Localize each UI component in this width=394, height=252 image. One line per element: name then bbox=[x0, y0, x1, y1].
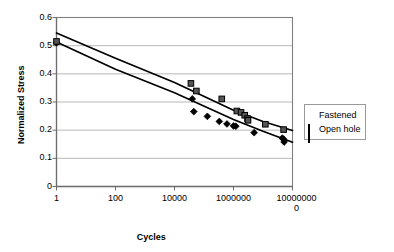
chart-legend: Fastened Open hole bbox=[304, 104, 366, 140]
x-axis-title: Cycles bbox=[0, 232, 303, 242]
square-marker-icon bbox=[308, 125, 317, 134]
x-tick-label: 100 bbox=[92, 193, 140, 203]
data-point-open-hole bbox=[281, 127, 287, 133]
x-tick-label: 10000 bbox=[151, 193, 199, 203]
data-point-fastened bbox=[190, 108, 197, 115]
legend-label-fastened: Fastened bbox=[319, 110, 357, 120]
legend-item-fastened: Fastened bbox=[308, 108, 361, 122]
legend-item-open-hole: Open hole bbox=[308, 122, 361, 136]
trend-lines bbox=[57, 33, 293, 142]
x-tick-label: 1 bbox=[33, 193, 81, 203]
data-point-open-hole bbox=[188, 81, 194, 87]
diamond-marker-icon bbox=[308, 111, 317, 120]
data-point-fastened bbox=[224, 121, 231, 128]
data-point-open-hole bbox=[194, 88, 200, 94]
data-point-fastened bbox=[204, 113, 211, 120]
fatigue-sn-chart: Normalized Stress 00.10.20.30.40.50.6 11… bbox=[0, 0, 394, 252]
data-points bbox=[53, 39, 287, 146]
data-point-open-hole bbox=[245, 118, 251, 124]
data-point-open-hole bbox=[54, 39, 60, 45]
x-tick-label-wrap: 0 bbox=[273, 203, 321, 213]
gridlines bbox=[57, 18, 293, 159]
data-point-fastened bbox=[216, 118, 223, 125]
trend-line-open-hole bbox=[57, 33, 293, 130]
x-tick-label: 1000000 bbox=[210, 193, 258, 203]
x-tick-label: 100000000 bbox=[273, 193, 321, 213]
data-point-open-hole bbox=[263, 121, 269, 127]
legend-label-open-hole: Open hole bbox=[319, 124, 361, 134]
data-point-open-hole bbox=[219, 96, 225, 102]
trend-line-fastened bbox=[57, 42, 293, 142]
